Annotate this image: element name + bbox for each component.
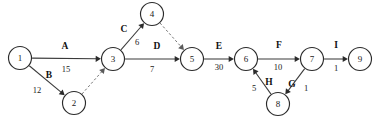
node-label-8: 8 [276, 99, 281, 109]
arrowhead-h [253, 69, 259, 75]
arrowhead-e-dummy-23 [99, 68, 105, 74]
node-label-1: 1 [18, 53, 23, 63]
arrowhead-g [285, 88, 291, 94]
edge-name-h: H [265, 77, 273, 87]
network-diagram: 123456789 A15B12C6D7E30F10H5G1I1 [0, 0, 380, 122]
edge-name-c: C [121, 24, 128, 34]
edge-weight-d: 7 [150, 64, 154, 74]
edge-name-f: F [276, 40, 282, 50]
edge-name-d: D [154, 41, 161, 51]
arrowhead-d [175, 56, 180, 62]
network-diagram-canvas: 123456789 A15B12C6D7E30F10H5G1I1 [0, 0, 380, 122]
edge-weight-e: 30 [215, 62, 224, 72]
edge-weight-i: 1 [334, 63, 338, 73]
edge-weight-a: 15 [62, 64, 71, 74]
node-label-7: 7 [310, 54, 315, 64]
node-9[interactable]: 9 [349, 48, 372, 71]
node-8[interactable]: 8 [267, 93, 290, 116]
arrowhead-i [343, 56, 348, 62]
node-label-5: 5 [190, 54, 195, 64]
node-6[interactable]: 6 [235, 48, 258, 71]
node-2[interactable]: 2 [63, 92, 86, 115]
node-5[interactable]: 5 [181, 48, 204, 71]
edge-weight-f: 10 [274, 62, 283, 72]
edge-name-e: E [216, 41, 222, 51]
node-label-2: 2 [72, 98, 77, 108]
edge-name-g: G [288, 79, 296, 89]
node-3[interactable]: 3 [102, 48, 125, 71]
node-1[interactable]: 1 [9, 47, 32, 70]
edge-e-dummy-23 [82, 71, 102, 94]
node-7[interactable]: 7 [301, 48, 324, 71]
edge-name-i: I [334, 40, 338, 50]
node-4[interactable]: 4 [141, 3, 164, 26]
edge-a [32, 58, 96, 59]
arrowhead-f [295, 56, 300, 62]
node-label-3: 3 [111, 54, 116, 64]
arrowhead-e [229, 56, 234, 62]
edge-weight-b: 12 [33, 85, 42, 95]
edge-weight-c: 6 [135, 37, 139, 47]
edge-name-b: B [46, 70, 53, 80]
arrowhead-a [96, 56, 101, 62]
edge-e-dummy-45 [160, 23, 181, 47]
nodes-layer: 123456789 [9, 3, 372, 116]
node-label-6: 6 [244, 54, 249, 64]
node-label-9: 9 [358, 54, 363, 64]
node-label-4: 4 [150, 9, 155, 19]
edge-weight-h: 5 [252, 83, 256, 93]
edge-weight-g: 1 [304, 83, 308, 93]
edge-name-a: A [62, 41, 69, 51]
